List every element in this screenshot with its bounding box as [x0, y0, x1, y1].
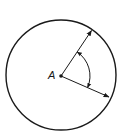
circle-angle-diagram	[0, 0, 124, 140]
lower-radius-arrow	[61, 76, 109, 97]
center-point-dot	[59, 74, 63, 78]
upper-radius-arrow	[61, 31, 92, 77]
center-label: A	[48, 70, 55, 81]
angle-arc	[77, 52, 90, 88]
